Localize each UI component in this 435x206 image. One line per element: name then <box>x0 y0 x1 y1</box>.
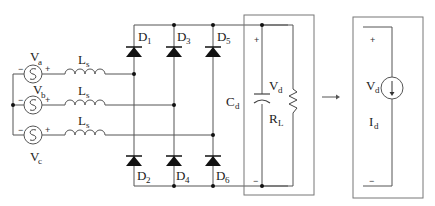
inductor-c: L s <box>65 113 105 135</box>
svg-text:d: d <box>278 85 283 95</box>
equivalence-arrow-icon <box>322 95 340 100</box>
svg-text:L: L <box>78 113 86 128</box>
diode-d3: D 3 <box>166 29 191 57</box>
current-source-id <box>381 77 403 99</box>
svg-text:L: L <box>78 83 86 98</box>
svg-text:C: C <box>226 94 235 109</box>
svg-text:4: 4 <box>185 175 190 185</box>
svg-text:D: D <box>138 29 147 44</box>
circuit-diagram: − + V a − + V b − + V c L s L s L s <box>0 0 435 206</box>
diode-d1: D 1 <box>126 29 152 57</box>
diode-d4: D 4 <box>166 156 190 185</box>
svg-text:a: a <box>38 57 42 67</box>
svg-text:d: d <box>375 85 380 95</box>
svg-text:s: s <box>86 90 90 100</box>
svg-text:L: L <box>278 118 284 128</box>
inductor-b: L s <box>65 83 105 105</box>
diode-d5: D 5 <box>205 29 231 57</box>
svg-text:d: d <box>235 101 240 111</box>
svg-text:D: D <box>216 168 225 183</box>
source-vb: − + V b <box>18 82 50 114</box>
svg-text:3: 3 <box>186 36 191 46</box>
svg-text:−: − <box>18 125 23 135</box>
diode-d2: D 2 <box>126 156 151 185</box>
svg-text:D: D <box>177 29 186 44</box>
source-va-minus: − <box>18 64 23 74</box>
source-va-plus: + <box>45 64 50 74</box>
svg-text:R: R <box>269 111 278 126</box>
svg-text:+: + <box>45 95 50 105</box>
equiv-id-label: I <box>369 114 373 129</box>
equiv-plus-sign: + <box>370 35 375 45</box>
source-vc: − + V c <box>18 125 50 166</box>
svg-text:D: D <box>137 168 146 183</box>
svg-text:6: 6 <box>225 175 230 185</box>
load-plus-sign: + <box>254 35 259 45</box>
svg-text:D: D <box>217 29 226 44</box>
svg-text:b: b <box>41 90 46 100</box>
svg-text:s: s <box>86 120 90 130</box>
svg-text:+: + <box>45 125 50 135</box>
svg-text:D: D <box>176 168 185 183</box>
equiv-minus-sign: − <box>369 176 374 186</box>
svg-text:L: L <box>78 52 86 67</box>
svg-text:2: 2 <box>146 175 151 185</box>
svg-text:d: d <box>374 121 379 131</box>
equivalent-box <box>353 17 423 198</box>
svg-text:5: 5 <box>226 36 231 46</box>
svg-text:s: s <box>86 59 90 69</box>
diode-d6: D 6 <box>205 156 230 185</box>
svg-text:c: c <box>38 156 42 166</box>
load-minus-sign: − <box>253 176 258 186</box>
capacitor-cd: C d <box>226 94 270 111</box>
source-va: − + V a <box>18 49 50 83</box>
svg-text:1: 1 <box>147 36 152 46</box>
svg-text:−: − <box>18 95 23 105</box>
inductor-a: L s <box>65 52 105 74</box>
